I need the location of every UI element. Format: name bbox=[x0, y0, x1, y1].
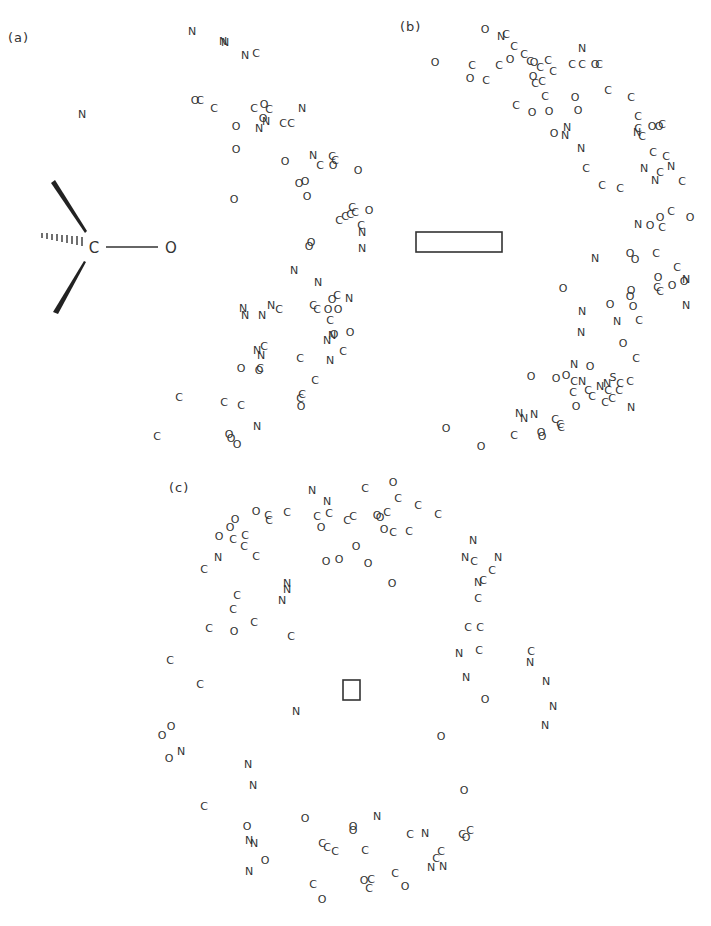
atom-label: O bbox=[233, 439, 242, 450]
atom-label: N bbox=[308, 485, 316, 496]
atom-label: N bbox=[290, 265, 298, 276]
atom-label: C bbox=[333, 290, 341, 301]
atom-label: N bbox=[530, 409, 538, 420]
atom-label: O bbox=[237, 363, 246, 374]
atom-label: O bbox=[352, 541, 361, 552]
atom-label: O bbox=[460, 785, 469, 796]
atom-label: C bbox=[627, 92, 635, 103]
box-b bbox=[416, 232, 502, 252]
atom-label: N bbox=[526, 657, 534, 668]
atom-label: N bbox=[249, 780, 257, 791]
atom-label: O bbox=[365, 205, 374, 216]
atom-label: O bbox=[232, 121, 241, 132]
atom-label: O bbox=[230, 194, 239, 205]
atom-label: N bbox=[244, 759, 252, 770]
atom-label: N bbox=[667, 161, 675, 172]
atom-label: N bbox=[258, 310, 266, 321]
inset-molecule bbox=[42, 180, 158, 314]
atom-label: C bbox=[200, 564, 208, 575]
atom-label: C bbox=[634, 111, 642, 122]
atom-label: C bbox=[595, 59, 603, 70]
atom-label: C bbox=[196, 679, 204, 690]
atom-label: C bbox=[252, 551, 260, 562]
atom-label: O bbox=[297, 401, 306, 412]
atom-label: C bbox=[237, 400, 245, 411]
atom-label: N bbox=[640, 163, 648, 174]
atom-label: O bbox=[261, 855, 270, 866]
atom-label: N bbox=[328, 330, 336, 341]
atom-label: C bbox=[196, 95, 204, 106]
atom-label: C bbox=[541, 91, 549, 102]
atom-label: N bbox=[577, 143, 585, 154]
atom-label: O bbox=[388, 578, 397, 589]
atom-label: C bbox=[582, 163, 590, 174]
atom-label: O bbox=[477, 441, 486, 452]
atom-label: C bbox=[658, 119, 666, 130]
atom-label: C bbox=[476, 622, 484, 633]
atom-label: O bbox=[481, 694, 490, 705]
atom-label: O bbox=[380, 524, 389, 535]
atom-label: C bbox=[383, 507, 391, 518]
atom-label: N bbox=[627, 402, 635, 413]
atom-label: O bbox=[243, 821, 252, 832]
atom-label: C bbox=[365, 883, 373, 894]
inset-center-atom: C bbox=[89, 243, 99, 254]
atom-label: N bbox=[267, 300, 275, 311]
atom-label: C bbox=[615, 385, 623, 396]
atom-label: C bbox=[240, 541, 248, 552]
drawing-layer bbox=[0, 0, 711, 926]
atom-label: O bbox=[545, 106, 554, 117]
atom-label: C bbox=[512, 100, 520, 111]
atom-label: C bbox=[166, 655, 174, 666]
atom-label: N bbox=[257, 350, 265, 361]
atom-label: C bbox=[361, 483, 369, 494]
atom-label: O bbox=[215, 531, 224, 542]
atom-label: N bbox=[345, 293, 353, 304]
atom-label: N bbox=[241, 310, 249, 321]
atom-label: C bbox=[649, 147, 657, 158]
atom-label: C bbox=[279, 118, 287, 129]
atom-label: O bbox=[442, 423, 451, 434]
atom-label: O bbox=[334, 304, 343, 315]
atom-label: C bbox=[283, 507, 291, 518]
atom-label: O bbox=[232, 144, 241, 155]
atom-label: O bbox=[528, 107, 537, 118]
atom-label: O bbox=[606, 299, 615, 310]
atom-label: N bbox=[292, 706, 300, 717]
atom-label: N bbox=[250, 838, 258, 849]
atom-label: O bbox=[462, 832, 471, 843]
atom-label: C bbox=[316, 160, 324, 171]
inset-bonded-atom: O bbox=[165, 243, 177, 254]
atom-label: O bbox=[165, 753, 174, 764]
atom-label: C bbox=[488, 565, 496, 576]
atom-label: N bbox=[358, 243, 366, 254]
atom-label: N bbox=[577, 327, 585, 338]
atom-label: C bbox=[210, 103, 218, 114]
atom-label: N bbox=[373, 811, 381, 822]
atom-label: O bbox=[481, 24, 490, 35]
atom-label: N bbox=[314, 277, 322, 288]
atom-label: C bbox=[510, 41, 518, 52]
atom-label: N bbox=[177, 746, 185, 757]
atom-label: C bbox=[626, 376, 634, 387]
atom-label: C bbox=[252, 48, 260, 59]
atom-label: C bbox=[635, 315, 643, 326]
atom-label: N bbox=[494, 552, 502, 563]
atom-label: O bbox=[574, 105, 583, 116]
atom-label: N bbox=[578, 43, 586, 54]
atom-label: C bbox=[250, 617, 258, 628]
atom-label: C bbox=[652, 248, 660, 259]
atom-label: N bbox=[634, 219, 642, 230]
atom-label: N bbox=[421, 828, 429, 839]
atom-label: O bbox=[538, 431, 547, 442]
atom-label: C bbox=[549, 66, 557, 77]
atom-label: O bbox=[389, 477, 398, 488]
atom-label: C bbox=[326, 315, 334, 326]
atom-label: C bbox=[200, 801, 208, 812]
atom-label: C bbox=[569, 387, 577, 398]
atom-label: N bbox=[78, 109, 86, 120]
atom-label: O bbox=[550, 128, 559, 139]
atom-label: O bbox=[437, 731, 446, 742]
atom-label: C bbox=[673, 262, 681, 273]
atom-label: C bbox=[287, 631, 295, 642]
